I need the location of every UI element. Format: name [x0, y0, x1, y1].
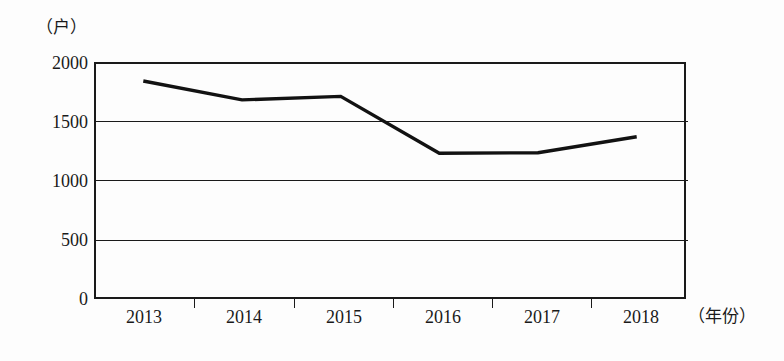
x-axis-tick-labels: 2013 2014 2015 2016 2017 2018 [0, 306, 784, 336]
x-tick-label-2013: 2013 [99, 306, 189, 328]
gridline-500 [96, 240, 688, 241]
plot-area-frame [94, 62, 686, 299]
x-axis-unit-label: （年份） [688, 306, 756, 328]
x-tick-label-2018: 2018 [596, 306, 686, 328]
x-tick-label-2016: 2016 [398, 306, 488, 328]
x-tick-label-2014: 2014 [199, 306, 289, 328]
gridline-1500 [96, 121, 688, 122]
y-tick-label-500: 500 [30, 231, 88, 249]
line-chart-figure: （户） 2000 1500 1000 500 0 2013 2014 2015 … [0, 0, 784, 361]
x-tick-label-2017: 2017 [497, 306, 587, 328]
x-tick-label-2015: 2015 [299, 306, 389, 328]
gridline-1000 [96, 180, 688, 181]
y-tick-label-1500: 1500 [30, 113, 88, 131]
y-tick-label-1000: 1000 [30, 172, 88, 190]
y-tick-label-2000: 2000 [30, 54, 88, 72]
